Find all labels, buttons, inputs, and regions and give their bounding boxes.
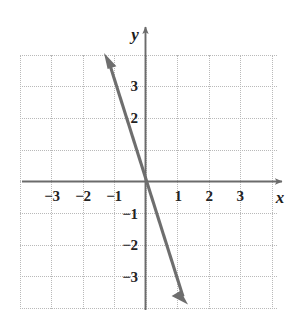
x-tick-label-neg3: −3 — [44, 188, 59, 205]
x-tick-label-3: 3 — [236, 188, 243, 205]
y-tick-label-neg2: −2 — [122, 237, 137, 254]
line-arrowhead-lower — [172, 291, 188, 305]
x-tick-label-neg2: −2 — [75, 188, 90, 205]
x-tick-label-1: 1 — [174, 188, 181, 205]
x-axis-label: x — [276, 188, 285, 208]
axes-and-plot — [0, 0, 297, 320]
x-tick-label-2: 2 — [205, 188, 212, 205]
line-arrowhead-upper — [104, 53, 116, 69]
y-tick-label-3: 3 — [130, 78, 137, 95]
coordinate-plane-figure: −3 −2 −1 1 2 3 3 2 −1 −2 −3 y x — [0, 0, 297, 320]
y-tick-label-neg1: −1 — [122, 206, 137, 223]
y-tick-label-2: 2 — [130, 110, 137, 127]
y-axis-label: y — [131, 25, 139, 45]
y-tick-label-neg3: −3 — [122, 269, 137, 286]
x-tick-label-neg1: −1 — [106, 188, 121, 205]
